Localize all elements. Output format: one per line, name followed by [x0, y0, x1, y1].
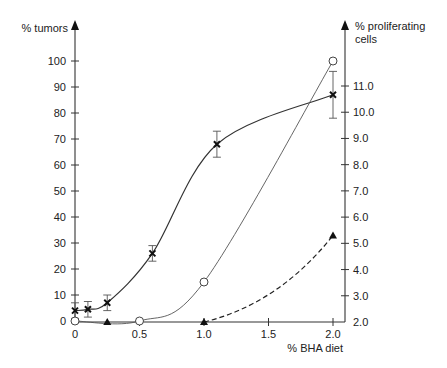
- open-circle-marker-icon: [136, 317, 144, 325]
- y-right-tick-label: 3.0: [353, 290, 368, 302]
- y-right-arrow-icon: [341, 20, 349, 30]
- y-right-axis-title-line1: % proliferating: [355, 20, 425, 32]
- x-tick-label: 0: [72, 328, 78, 340]
- y-left-tick-label: 40: [54, 211, 66, 223]
- y-left-tick-label: 90: [54, 81, 66, 93]
- open-circle-marker-icon: [200, 278, 208, 286]
- y-right-tick-label: 7.0: [353, 185, 368, 197]
- open-circle-marker-icon: [71, 317, 79, 325]
- y-left-arrow-icon: [71, 20, 79, 30]
- y-right-tick-label: 4.0: [353, 264, 368, 276]
- y-right-tick-label: 2.0: [353, 316, 368, 328]
- y-left-tick-label: 0: [60, 315, 66, 327]
- series-line: [204, 235, 333, 322]
- x-axis-title: % BHA diet: [287, 342, 343, 354]
- y-right-tick-label: 5.0: [353, 237, 368, 249]
- series-layer: [71, 57, 337, 325]
- filled-triangle-marker-icon: [329, 231, 337, 238]
- y-left-tick-label: 20: [54, 263, 66, 275]
- y-right-tick-label: 11.0: [353, 80, 374, 92]
- y-left-tick-label: 10: [54, 289, 66, 301]
- y-right-tick-label: 9.0: [353, 132, 368, 144]
- y-left-tick-label: 100: [48, 55, 66, 67]
- y-left-tick-label: 70: [54, 133, 66, 145]
- chart: 01020304050607080901002.03.04.05.06.07.0…: [0, 0, 447, 368]
- open-circle-marker-icon: [329, 57, 337, 65]
- y-left-tick-label: 80: [54, 107, 66, 119]
- y-left-tick-label: 30: [54, 237, 66, 249]
- y-right-axis-title-line2: cells: [355, 33, 378, 45]
- x-tick-label: 1.5: [261, 328, 276, 340]
- x-tick-label: 2.0: [325, 328, 340, 340]
- y-right-tick-label: 10.0: [353, 106, 374, 118]
- axes: 01020304050607080901002.03.04.05.06.07.0…: [48, 20, 375, 340]
- y-left-tick-label: 50: [54, 185, 66, 197]
- y-left-axis-title: % tumors: [22, 22, 69, 34]
- y-right-tick-label: 8.0: [353, 159, 368, 171]
- x-tick-label: 0.5: [132, 328, 147, 340]
- x-tick-label: 1.0: [196, 328, 211, 340]
- y-left-tick-label: 60: [54, 159, 66, 171]
- y-right-tick-label: 6.0: [353, 211, 368, 223]
